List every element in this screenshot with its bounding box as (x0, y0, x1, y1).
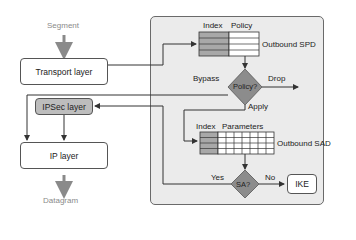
sa-diamond-label: SA? (236, 180, 250, 189)
ipsec-layer-box[interactable]: IPSec layer (35, 98, 93, 115)
ip-layer-label: IP layer (50, 151, 79, 161)
spd-col-policy: Policy (231, 21, 252, 30)
sad-col-parameters: Parameters (222, 122, 263, 131)
spd-col-index: Index (203, 21, 223, 30)
sad-col-index: Index (196, 122, 216, 131)
datagram-label: Datagram (43, 196, 78, 205)
bypass-label: Bypass (193, 74, 219, 83)
transport-layer-box[interactable]: Transport layer (20, 58, 108, 85)
ip-layer-box[interactable]: IP layer (20, 142, 108, 169)
apply-label: Apply (248, 102, 268, 111)
drop-label: Drop (268, 74, 285, 83)
segment-label: Segment (47, 21, 79, 30)
sad-name: Outbound SAD (277, 139, 331, 148)
yes-label: Yes (211, 173, 224, 182)
spd-table (199, 32, 259, 56)
transport-layer-label: Transport layer (36, 67, 93, 77)
ike-label: IKE (295, 179, 309, 189)
sad-table (200, 132, 274, 154)
ike-box[interactable]: IKE (287, 174, 317, 194)
no-label: No (265, 173, 275, 182)
spd-name: Outbound SPD (262, 40, 316, 49)
ipsec-layer-label: IPSec layer (42, 102, 85, 112)
policy-diamond-label: Policy? (233, 82, 257, 91)
